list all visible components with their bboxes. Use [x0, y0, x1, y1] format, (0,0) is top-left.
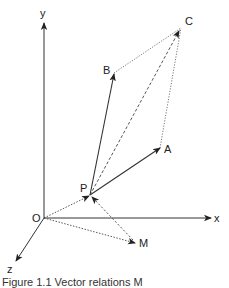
z-axis-label: z — [7, 263, 13, 275]
y-axis-label: y — [40, 7, 46, 19]
vector-pa — [90, 148, 160, 195]
vector-om — [44, 218, 135, 243]
vector-op — [44, 196, 89, 218]
edge-ac — [160, 28, 181, 148]
edge-bc — [114, 28, 181, 73]
point-b-label: B — [103, 64, 110, 76]
z-axis — [16, 218, 44, 261]
point-p-label: P — [80, 182, 87, 194]
point-a-label: A — [164, 143, 172, 155]
vector-pb — [90, 74, 114, 195]
point-c-label: C — [185, 15, 193, 27]
point-m-label: M — [139, 237, 148, 249]
figure-caption: Figure 1.1 Vector relations M — [2, 276, 143, 288]
origin-label: O — [32, 212, 41, 224]
vector-pc — [90, 31, 179, 195]
x-axis-label: x — [214, 212, 220, 224]
